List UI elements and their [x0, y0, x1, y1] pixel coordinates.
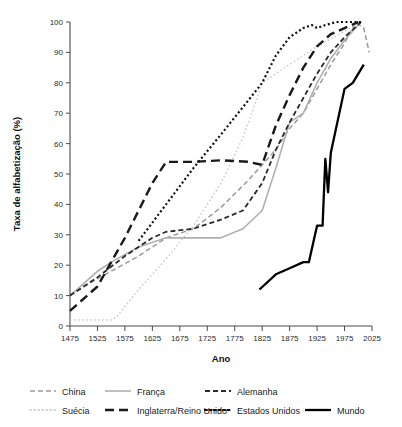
y-tick-label: 90	[54, 48, 63, 57]
x-tick-label: 1575	[116, 334, 134, 343]
x-axis-title: Ano	[212, 353, 231, 364]
x-tick-label: 1825	[253, 334, 271, 343]
x-tick-label: 1475	[61, 334, 79, 343]
y-tick-label: 40	[54, 200, 63, 209]
legend-label: Suécia	[62, 406, 90, 416]
chart-svg: 0102030405060708090100 Taxa de alfabetiz…	[0, 0, 402, 427]
x-tick-label: 1925	[308, 334, 326, 343]
series-line	[70, 22, 361, 296]
y-axis-title: Taxa de alfabetização (%)	[11, 117, 22, 231]
x-tick-label: 1725	[198, 334, 216, 343]
series-line	[139, 22, 361, 241]
y-tick-label: 80	[54, 79, 63, 88]
x-tick-label: 1675	[171, 334, 189, 343]
x-tick-label: 1775	[226, 334, 244, 343]
y-tick-label: 100	[50, 18, 64, 27]
series-line	[70, 22, 361, 320]
series-line	[259, 65, 363, 290]
y-tick-label: 30	[54, 231, 63, 240]
y-tick-group: 0102030405060708090100	[50, 18, 70, 331]
x-tick-label: 2025	[363, 334, 381, 343]
y-tick-label: 20	[54, 261, 63, 270]
chart-legend: ChinaFrançaAlemanhaSuéciaInglaterra/Rein…	[30, 387, 365, 416]
legend-label: Alemanha	[237, 387, 278, 397]
y-tick-label: 50	[54, 170, 63, 179]
y-axis-group: 0102030405060708090100 Taxa de alfabetiz…	[11, 18, 70, 331]
y-tick-label: 60	[54, 140, 63, 149]
legend-label: França	[137, 387, 165, 397]
legend-item[interactable]: Mundo	[305, 406, 365, 416]
legend-label: China	[62, 387, 86, 397]
series-group	[70, 22, 369, 320]
literacy-rate-chart: 0102030405060708090100 Taxa de alfabetiz…	[0, 0, 402, 427]
legend-item[interactable]: França	[105, 387, 165, 397]
y-tick-label: 0	[59, 322, 64, 331]
x-axis-group: 1475152515751625167517251775182518751925…	[61, 326, 381, 364]
x-tick-group: 1475152515751625167517251775182518751925…	[61, 326, 381, 343]
legend-item[interactable]: Suécia	[30, 406, 90, 416]
legend-label: Estados Unidos	[237, 406, 301, 416]
series-line	[70, 22, 361, 296]
series-line	[70, 22, 358, 311]
x-tick-label: 1875	[281, 334, 299, 343]
x-tick-label: 1525	[89, 334, 107, 343]
legend-item[interactable]: China	[30, 387, 86, 397]
y-tick-label: 10	[54, 292, 63, 301]
legend-item[interactable]: Alemanha	[205, 387, 278, 397]
x-tick-label: 1975	[336, 334, 354, 343]
x-tick-label: 1625	[143, 334, 161, 343]
y-tick-label: 70	[54, 109, 63, 118]
legend-label: Mundo	[337, 406, 365, 416]
